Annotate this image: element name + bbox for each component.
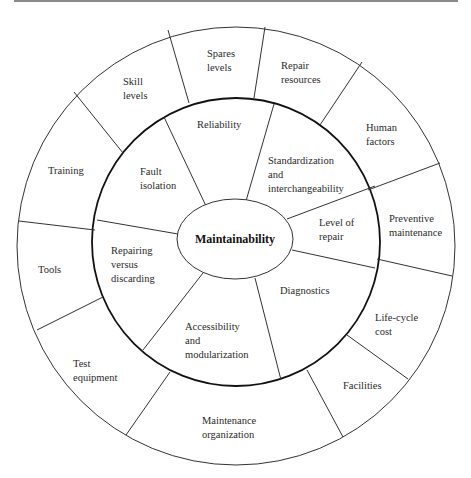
spoke-spares-repair [254, 27, 265, 98]
spoke-test-tools [37, 297, 103, 330]
label-training: Training [48, 165, 85, 176]
label-repairing-vs-discarding: Repairing versus discarding [111, 245, 155, 284]
center-label: Maintainability [195, 232, 275, 246]
label-facilities: Facilities [343, 380, 382, 391]
label-spares-levels: Spares levels [207, 48, 238, 73]
spoke-training-skill [74, 92, 123, 153]
label-skill-levels: Skill levels [123, 76, 148, 101]
label-diagnostics: Diagnostics [280, 285, 330, 296]
spoke-lifecycle-facilities [347, 335, 408, 379]
spoke-diagnostics-accessibility [255, 278, 281, 380]
label-tools: Tools [38, 264, 61, 275]
spoke-repair-human [320, 62, 362, 125]
label-repair-resources: Repair resources [281, 60, 321, 85]
label-fault-isolation: Fault isolation [140, 166, 177, 191]
spoke-human-preventive [368, 163, 440, 190]
spoke-fault-reliability [164, 117, 206, 206]
spoke-repairing-fault [97, 220, 178, 234]
maintainability-wheel-diagram: Maintainability Reliability Standardizat… [0, 0, 471, 478]
spoke-skill-spares [168, 30, 189, 103]
spoke-maintenance-test [126, 372, 170, 435]
spoke-preventive-lifecycle [377, 259, 452, 276]
label-standardization: Standardization and interchangeability [268, 155, 345, 194]
label-reliability: Reliability [197, 119, 242, 130]
label-test-equipment: Test equipment [73, 358, 117, 383]
label-level-of-repair: Level of repair [319, 217, 357, 242]
spoke-level-diagnostics [292, 250, 375, 268]
spoke-facilities-maintenance [307, 370, 343, 437]
label-life-cycle-cost: Life-cycle cost [375, 312, 421, 337]
label-accessibility: Accessibility and modularization [185, 321, 249, 360]
label-human-factors: Human factors [366, 122, 400, 147]
spoke-tools-training [19, 221, 95, 230]
label-maintenance-organization: Maintenance organization [202, 415, 259, 440]
label-preventive-maintenance: Preventive maintenance [389, 213, 442, 238]
